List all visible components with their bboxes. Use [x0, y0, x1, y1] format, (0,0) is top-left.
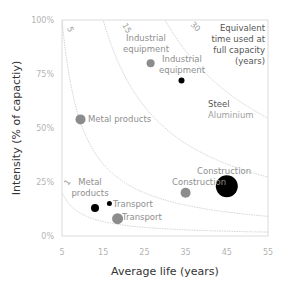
point-label: equipment: [159, 65, 206, 75]
x-tick-label: 5: [59, 248, 64, 257]
legend-title-line-4: (years): [235, 56, 265, 66]
x-axis-ticks: 51525354555: [59, 248, 273, 257]
data-point-aluminium: [76, 114, 86, 124]
chart: 151530 0%25%50%75%100% 51525354555 Indus…: [0, 0, 286, 291]
data-point-steel: [179, 78, 185, 84]
legend-aluminium: Aluminium: [208, 110, 254, 120]
data-point-steel: [107, 201, 112, 206]
y-tick-label: 25%: [36, 178, 54, 187]
x-tick-label: 35: [181, 248, 191, 257]
y-tick-label: 0%: [41, 232, 54, 241]
y-tick-label: 100%: [31, 16, 54, 25]
data-point-aluminium: [147, 59, 155, 67]
y-tick-label: 50%: [36, 124, 54, 133]
legend-title-line-2: time used at: [211, 34, 265, 44]
iso-curve-label: 5: [65, 26, 75, 34]
iso-curve-label: 30: [189, 20, 203, 34]
point-label: Industrial: [162, 54, 202, 64]
point-label: Transport: [121, 212, 163, 222]
point-label: Construction: [172, 177, 226, 187]
x-tick-label: 25: [139, 248, 149, 257]
legend-steel: Steel: [208, 99, 230, 109]
y-tick-label: 75%: [36, 70, 54, 79]
point-label: Metal: [78, 177, 101, 187]
iso-curve-label: 1: [62, 178, 72, 187]
x-axis-label: Average life (years): [111, 265, 219, 278]
y-axis-label: Intensity (% of capactiy): [10, 61, 23, 195]
x-tick-label: 55: [263, 248, 273, 257]
y-axis-ticks: 0%25%50%75%100%: [31, 16, 54, 241]
data-point-steel: [91, 204, 99, 212]
legend-title-line-1: Equivalent: [220, 23, 266, 33]
data-points: [76, 59, 238, 224]
legend: Equivalent time used at full capacity (y…: [208, 23, 266, 120]
point-label: Transport: [112, 199, 154, 209]
point-label: Industrial: [126, 33, 166, 43]
x-tick-label: 15: [98, 248, 108, 257]
data-point-aluminium: [181, 188, 191, 198]
point-label: Construction: [197, 166, 251, 176]
x-tick-label: 45: [222, 248, 232, 257]
point-label: equipment: [123, 44, 170, 54]
point-label: Metal products: [88, 114, 152, 124]
legend-title-line-3: full capacity: [213, 45, 265, 55]
point-label: products: [71, 188, 109, 198]
